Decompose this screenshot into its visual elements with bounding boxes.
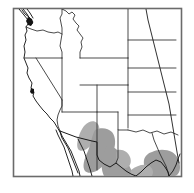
- range-map-figure: [0, 0, 194, 193]
- map-canvas: [0, 0, 194, 193]
